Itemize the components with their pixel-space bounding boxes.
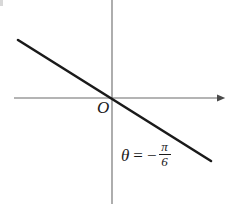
angle-ray-line — [18, 40, 211, 161]
fraction-numerator: π — [159, 140, 170, 154]
minus-symbol: − — [147, 147, 157, 164]
theta-symbol: θ — [121, 147, 129, 164]
angle-equation-label: θ = − π 6 — [121, 141, 171, 169]
pi-over-six-fraction: π 6 — [159, 140, 171, 168]
fraction-denominator: 6 — [159, 155, 170, 169]
origin-label: O — [97, 99, 109, 116]
figure-canvas — [0, 0, 234, 204]
math-figure: O θ = − π 6 — [0, 0, 234, 204]
equals-symbol: = — [133, 147, 143, 164]
